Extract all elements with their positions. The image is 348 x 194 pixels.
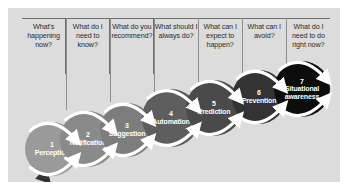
column-divider-2: [110, 18, 111, 102]
question-header-row: What's happening now? What do I need to …: [22, 18, 330, 74]
diagram-root: What's happening now? What do I need to …: [0, 0, 348, 194]
question-text-3: What do you recommend?: [110, 22, 153, 40]
question-text-5: What can I expect to happen?: [199, 22, 242, 49]
question-column-6: What can I avoid?: [242, 18, 286, 74]
question-text-1: What's happening now?: [22, 22, 65, 49]
question-column-4: What should I always do?: [153, 18, 197, 74]
question-column-3: What do you recommend?: [109, 18, 153, 74]
stage-circle-7: 7Situational awareness: [274, 61, 330, 117]
column-divider-4: [198, 18, 199, 82]
stage-number-2: 2: [86, 131, 90, 138]
stage-number-3: 3: [125, 122, 129, 129]
stage-name-4: Automation: [150, 118, 191, 126]
diagram-panel: What's happening now? What do I need to …: [8, 8, 340, 182]
question-text-6: What can I avoid?: [243, 22, 286, 40]
question-column-2: What do I need to know?: [65, 18, 109, 74]
stage-number-5: 5: [212, 100, 216, 107]
question-text-2: What do I need to know?: [66, 22, 109, 49]
stage-number-7: 7: [300, 78, 304, 85]
stage-number-1: 1: [50, 141, 54, 148]
stage-name-6: Prevention: [240, 97, 279, 105]
stage-number-6: 6: [257, 89, 261, 96]
column-divider-5: [242, 18, 243, 74]
question-text-4: What should I always do?: [154, 22, 197, 40]
question-column-1: What's happening now?: [22, 18, 65, 74]
question-column-5: What can I expect to happen?: [198, 18, 242, 74]
stage-name-3: Suggestion: [107, 130, 148, 138]
stage-name-7: Situational awareness: [274, 85, 330, 101]
stage-name-5: Prediction: [196, 108, 233, 116]
column-divider-6: [286, 18, 287, 64]
column-divider-3: [154, 18, 155, 92]
question-text-7: What do I need to do right now?: [287, 22, 330, 49]
column-divider-1: [66, 18, 67, 110]
stage-number-4: 4: [169, 110, 173, 117]
